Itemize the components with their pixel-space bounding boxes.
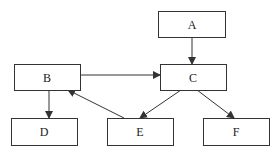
node-e: E bbox=[108, 119, 174, 146]
node-f-label: F bbox=[233, 125, 240, 139]
edge-e-to-b bbox=[68, 90, 124, 118]
node-c-label: C bbox=[189, 71, 197, 85]
node-c: C bbox=[161, 65, 227, 91]
node-d: D bbox=[12, 119, 78, 146]
node-f: F bbox=[204, 119, 270, 146]
edge-c-to-e bbox=[140, 90, 181, 118]
edge-c-to-f bbox=[197, 90, 234, 118]
node-b-label: B bbox=[43, 71, 51, 85]
node-d-label: D bbox=[40, 125, 49, 139]
node-a-label: A bbox=[188, 18, 197, 32]
node-e-label: E bbox=[136, 125, 143, 139]
node-a: A bbox=[159, 12, 226, 38]
node-b: B bbox=[15, 65, 81, 91]
diagram-canvas: A B C D E F bbox=[0, 0, 277, 159]
